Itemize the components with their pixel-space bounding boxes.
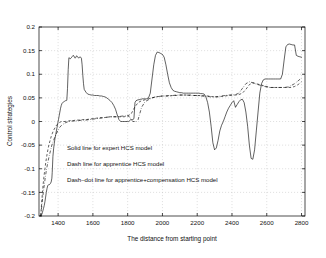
y-tick-label: -0.15 [21, 189, 36, 196]
x-tick-label: 1800 [121, 219, 135, 226]
x-tick-label: 2000 [156, 219, 170, 226]
y-tick-label: 0.15 [23, 47, 36, 54]
figure-container: 14001600180020002200240026002800-0.2-0.1… [0, 0, 326, 258]
y-tick-label: -0.05 [21, 141, 36, 148]
chart-canvas: 14001600180020002200240026002800-0.2-0.1… [0, 0, 326, 258]
x-tick-label: 2200 [190, 219, 204, 226]
y-tick-label: 0.1 [26, 70, 35, 77]
y-tick-label: -0.2 [24, 212, 35, 219]
legend-entry-dashdot: Dash–dot line for apprentice+compensatio… [67, 176, 218, 183]
y-tick-label: -0.1 [24, 165, 35, 172]
series-path-solid [41, 44, 302, 216]
y-tick-label: 0.05 [23, 94, 36, 101]
x-tick-label: 2800 [295, 219, 309, 226]
x-tick-label: 2400 [225, 219, 239, 226]
axis-tick-labels: 14001600180020002200240026002800-0.2-0.1… [21, 23, 309, 226]
y-tick-label: 0.2 [26, 23, 35, 30]
x-axis-title: The distance from starting point [127, 235, 217, 243]
grid-lines [39, 27, 305, 216]
y-axis-title: Control strategies [6, 96, 14, 146]
data-series-group [41, 44, 302, 216]
legend-entry-dash: Dash line for apprentice HCS model [67, 160, 164, 167]
legend-entry-solid: Solid line for expert HCS model [67, 144, 152, 151]
y-tick-label: 0 [32, 118, 36, 125]
x-tick-label: 1400 [51, 219, 65, 226]
x-tick-label: 2600 [260, 219, 274, 226]
x-tick-label: 1600 [86, 219, 100, 226]
